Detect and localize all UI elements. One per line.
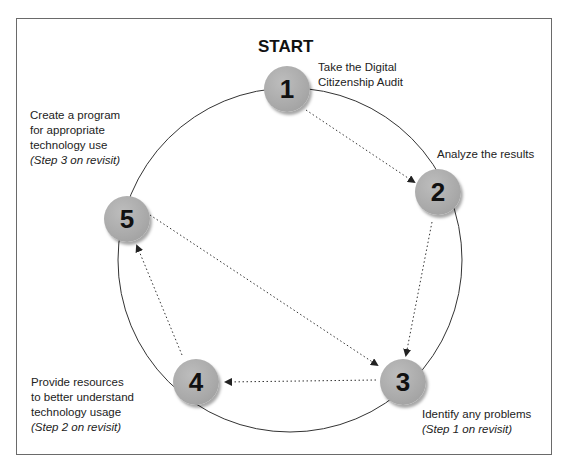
step-1-node: 1	[264, 66, 310, 112]
step-5-node: 5	[104, 196, 150, 242]
arrow-5-to-3	[150, 215, 377, 365]
step-4-node: 4	[173, 359, 219, 405]
step-2-label: Analyze the results	[437, 147, 534, 162]
start-heading: START	[258, 37, 313, 57]
step-3-node: 3	[380, 359, 426, 405]
step-3-label: Identify any problems (Step 1 on revisit…	[422, 407, 531, 437]
arrow-1-to-2	[306, 110, 414, 182]
step-5-label: Create a program for appropriate technol…	[30, 108, 120, 168]
arrow-4-to-5	[137, 246, 182, 355]
step-4-label: Provide resources to better understand t…	[31, 375, 134, 435]
arrow-2-to-3	[406, 222, 432, 355]
step-1-label: Take the Digital Citizenship Audit	[318, 60, 403, 90]
arrow-3-to-4	[226, 380, 376, 382]
step-2-node: 2	[415, 169, 461, 215]
